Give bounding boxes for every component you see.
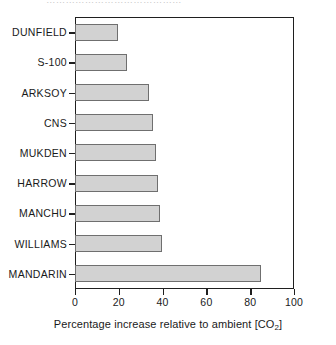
clipped-caption-remnant: …………………………………… — [46, 0, 312, 4]
bar-row — [75, 47, 294, 77]
y-axis-tick — [69, 274, 75, 275]
bar-manchu — [75, 205, 160, 222]
bar-row — [75, 108, 294, 138]
category-label-manchu: MANCHU — [0, 198, 67, 228]
bar-row — [75, 229, 294, 259]
bar-chart-figure: …………………………………… DUNFIELDS-100ARKSOYCNSMUK… — [0, 0, 336, 345]
category-axis: DUNFIELDS-100ARKSOYCNSMUKDENHARROWMANCHU… — [0, 17, 75, 289]
x-axis-title-main: Percentage increase relative to ambient … — [54, 318, 275, 330]
category-label-dunfield: DUNFIELD — [0, 17, 67, 47]
category-label-s-100: S-100 — [0, 47, 67, 77]
x-axis-tick-label: 80 — [230, 296, 270, 308]
bar-arksoy — [75, 84, 149, 101]
bar-mandarin — [75, 265, 261, 282]
bar-s-100 — [75, 54, 128, 71]
x-axis-tick — [294, 289, 295, 295]
category-label-williams: WILLIAMS — [0, 229, 67, 259]
x-axis-ticks — [75, 289, 294, 295]
y-axis-tick — [69, 32, 75, 33]
x-axis-tick-label: 40 — [143, 296, 183, 308]
x-axis-tick — [163, 289, 164, 295]
bar-row — [75, 198, 294, 228]
x-axis-tick-label: 20 — [99, 296, 139, 308]
category-label-cns: CNS — [0, 108, 67, 138]
y-axis-tick — [69, 93, 75, 94]
x-axis-tick — [119, 289, 120, 295]
x-axis-tick-labels: 020406080100 — [0, 296, 336, 310]
bar-mukden — [75, 144, 156, 161]
bar-williams — [75, 235, 163, 252]
bar-row — [75, 138, 294, 168]
x-axis-title-subscript: 2 — [275, 323, 280, 332]
bar-row — [75, 259, 294, 289]
x-axis-title: Percentage increase relative to ambient … — [0, 318, 336, 330]
bars-container — [75, 17, 294, 289]
y-axis-tick — [69, 213, 75, 214]
x-axis-tick-label: 0 — [55, 296, 95, 308]
bar-row — [75, 17, 294, 47]
x-axis-tick-label: 60 — [186, 296, 226, 308]
y-axis-tick — [69, 123, 75, 124]
x-axis-tick — [250, 289, 251, 295]
y-axis-tick — [69, 153, 75, 154]
y-axis-tick — [69, 244, 75, 245]
category-label-mandarin: MANDARIN — [0, 259, 67, 289]
y-axis-tick — [69, 62, 75, 63]
category-label-arksoy: ARKSOY — [0, 77, 67, 107]
bar-cns — [75, 114, 154, 131]
x-axis-title-tail: ] — [279, 318, 282, 330]
bar-row — [75, 77, 294, 107]
category-label-mukden: MUKDEN — [0, 138, 67, 168]
bar-row — [75, 168, 294, 198]
category-label-harrow: HARROW — [0, 168, 67, 198]
x-axis-tick — [206, 289, 207, 295]
y-axis-tick — [69, 183, 75, 184]
x-axis-tick — [75, 289, 76, 295]
bar-harrow — [75, 175, 158, 192]
x-axis-tick-label: 100 — [274, 296, 314, 308]
bar-dunfield — [75, 24, 119, 41]
